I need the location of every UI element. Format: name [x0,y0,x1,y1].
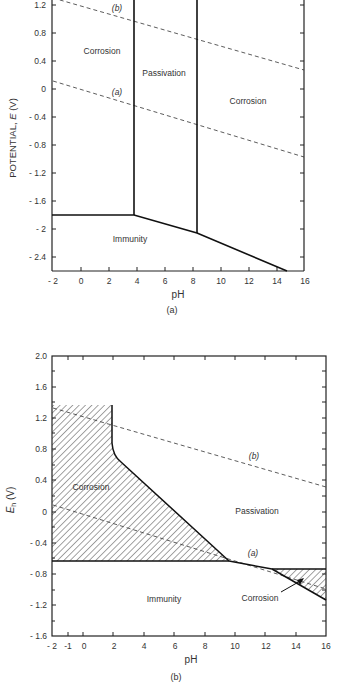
svg-text:0.4: 0.4 [34,56,46,66]
svg-text:6: 6 [163,276,168,286]
svg-text:8: 8 [191,276,196,286]
svg-text:6: 6 [173,641,178,651]
svg-text:0.8: 0.8 [35,444,47,454]
svg-text:Immunity: Immunity [147,594,182,604]
chart-b-boundary-passivation-immunity [229,561,272,569]
svg-text:- 0.4: - 0.4 [29,112,46,122]
chart-a-label-a: (a) [112,87,123,97]
svg-text:-1: -1 [64,641,72,651]
chart-a-y-ticks [52,5,304,271]
svg-text:10: 10 [230,641,240,651]
chart-a-caption: (a) [167,305,178,315]
chart-a-immunity-boundary [52,215,287,271]
chart-b-y-axis-title: Eh (V) [5,487,17,514]
svg-text:0.8: 0.8 [34,28,46,38]
chart-b-y-tick-labels: 2.0 1.6 1.2 0.8 0.4 0 - 0.4 - 0.8 - 1.2 … [30,351,47,641]
svg-text:Corrosion: Corrosion [73,482,110,492]
svg-text:0: 0 [79,276,84,286]
svg-text:8: 8 [203,641,208,651]
svg-text:- 0.8: - 0.8 [29,140,46,150]
figure: 1.2 0.8 0.4 0 - 0.4 - 0.8 - 1.2 - 1.6 - … [0,0,343,692]
svg-text:0.4: 0.4 [35,475,47,485]
svg-text:Passivation: Passivation [235,506,279,516]
chart-b-x-axis-title: pH [185,654,198,665]
chart-a-dashed-line-b [53,0,304,70]
chart-b-label-a: (a) [248,548,259,558]
chart-a-y-axis-title: POTENTIAL, E (V) [7,98,18,178]
svg-text:- 2: - 2 [48,276,58,286]
chart-b-label-b: (b) [249,451,260,461]
svg-text:- 1.2: - 1.2 [29,168,46,178]
svg-text:14: 14 [272,276,282,286]
chart-a-dashed-line-a [53,81,304,157]
svg-text:1.2: 1.2 [34,0,46,10]
chart-a-y-tick-labels: 1.2 0.8 0.4 0 - 0.4 - 0.8 - 1.2 - 1.6 - … [29,0,46,262]
chart-b-caption: (b) [171,672,182,682]
chart-b: 2.0 1.6 1.2 0.8 0.4 0 - 0.4 - 0.8 - 1.2 … [5,351,331,682]
svg-text:0: 0 [42,507,47,517]
svg-text:- 1.2: - 1.2 [30,600,47,610]
svg-text:12: 12 [244,276,254,286]
chart-a-x-tick-labels: - 2 0 2 4 6 8 10 12 14 16 [48,276,310,286]
chart-a-label-b: (b) [112,3,123,13]
chart-b-x-tick-labels: - 2 -1 0 2 4 6 8 10 12 14 16 [47,641,331,651]
svg-text:- 0.4: - 0.4 [30,538,47,548]
svg-text:2.0: 2.0 [35,351,47,361]
svg-text:2: 2 [107,276,112,286]
chart-a-x-axis-title: pH [172,289,185,300]
svg-text:- 2: - 2 [47,641,57,651]
svg-text:Immunity: Immunity [113,234,148,244]
svg-text:16: 16 [321,641,331,651]
svg-text:1.2: 1.2 [35,413,47,423]
svg-text:Corrosion: Corrosion [242,593,279,603]
svg-text:4: 4 [135,276,140,286]
svg-text:10: 10 [216,276,226,286]
svg-text:- 1.6: - 1.6 [30,631,47,641]
svg-text:2: 2 [112,641,117,651]
svg-text:4: 4 [142,641,147,651]
svg-text:12: 12 [261,641,271,651]
svg-text:16: 16 [300,276,310,286]
svg-text:- 0.8: - 0.8 [30,569,47,579]
svg-text:- 2.4: - 2.4 [29,252,46,262]
svg-text:0: 0 [41,84,46,94]
svg-text:Corrosion: Corrosion [84,46,121,56]
svg-text:- 2: - 2 [36,224,46,234]
svg-text:0: 0 [82,641,87,651]
svg-text:Corrosion: Corrosion [230,96,267,106]
svg-text:Passivation: Passivation [142,68,186,78]
chart-a: 1.2 0.8 0.4 0 - 0.4 - 0.8 - 1.2 - 1.6 - … [7,0,310,315]
svg-text:1.6: 1.6 [35,382,47,392]
svg-text:14: 14 [291,641,301,651]
svg-text:- 1.6: - 1.6 [29,196,46,206]
